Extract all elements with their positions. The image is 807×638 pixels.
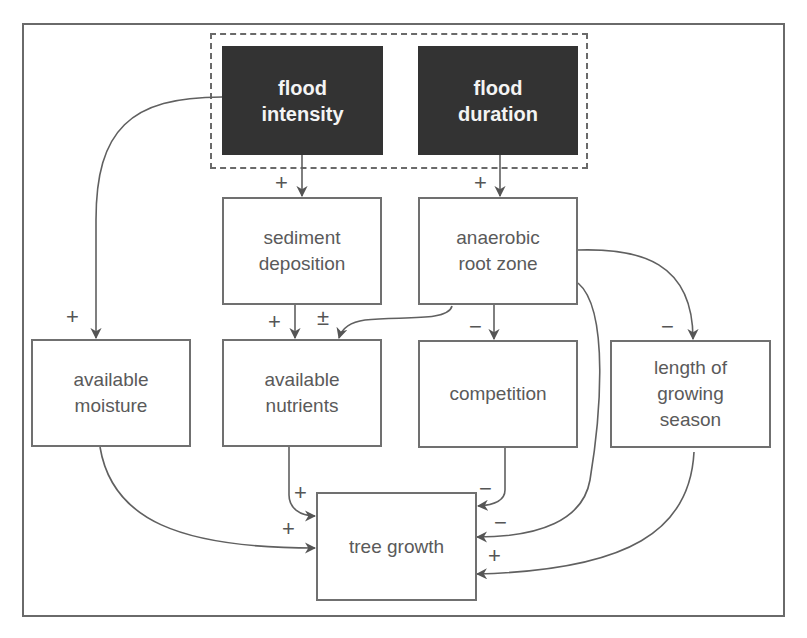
- node-available-nutrients: available nutrients: [222, 339, 382, 447]
- node-tree-growth: tree growth: [316, 492, 477, 601]
- node-label: flood duration: [458, 75, 538, 127]
- sign-intensity-sediment: +: [275, 172, 288, 194]
- edge-intensity-to-moisture: [96, 97, 222, 338]
- node-label: anaerobic root zone: [456, 225, 539, 277]
- node-anaerobic-root-zone: anaerobic root zone: [418, 197, 578, 305]
- sign-competition-tree: −: [479, 478, 492, 500]
- node-label: competition: [449, 381, 546, 407]
- node-label: tree growth: [349, 534, 444, 560]
- node-label: available nutrients: [265, 367, 340, 419]
- sign-anaerobic-nutrients: ±: [317, 307, 329, 329]
- node-flood-intensity: flood intensity: [222, 46, 383, 155]
- sign-season-tree: +: [488, 545, 501, 567]
- sign-sediment-nutrients: +: [268, 311, 281, 333]
- sign-anaerobic-season: −: [661, 316, 674, 338]
- sign-anaerobic-tree: −: [494, 512, 507, 534]
- sign-intensity-moisture: +: [66, 306, 79, 328]
- node-label: available moisture: [74, 367, 149, 419]
- sign-moisture-tree: +: [282, 518, 295, 540]
- node-label: length of growing season: [654, 355, 727, 433]
- sign-nutrients-tree: +: [294, 482, 307, 504]
- node-label: flood intensity: [261, 75, 343, 127]
- node-length-of-growing-season: length of growing season: [610, 340, 771, 448]
- node-competition: competition: [418, 340, 578, 448]
- sign-duration-anaerobic: +: [474, 172, 487, 194]
- node-available-moisture: available moisture: [31, 339, 191, 447]
- sign-anaerobic-competition: −: [469, 316, 482, 338]
- edge-season-to-tree: [477, 452, 694, 574]
- node-flood-duration: flood duration: [418, 46, 578, 155]
- edge-anaerobic-to-nutrients: [339, 306, 452, 338]
- node-label: sediment deposition: [259, 225, 346, 277]
- edge-anaerobic-to-season: [578, 250, 693, 339]
- node-sediment-deposition: sediment deposition: [222, 197, 382, 305]
